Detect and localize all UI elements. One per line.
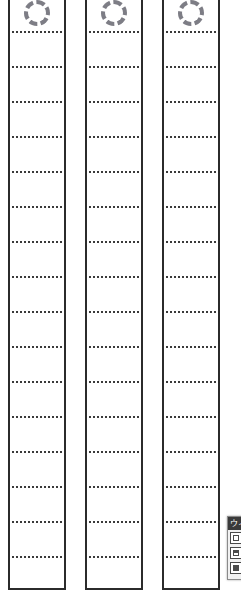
- dotted-rule: [89, 171, 139, 173]
- dotted-rule: [89, 381, 139, 383]
- dotted-rule: [166, 276, 216, 278]
- dotted-rule: [89, 521, 139, 523]
- dotted-rule: [12, 136, 62, 138]
- dotted-rule: [12, 311, 62, 313]
- strip-1[interactable]: [8, 0, 66, 590]
- dotted-rule: [166, 311, 216, 313]
- dotted-rule: [12, 171, 62, 173]
- dotted-rule: [166, 101, 216, 103]
- floating-tool-palette[interactable]: ウィ: [227, 516, 241, 580]
- dotted-rule: [166, 241, 216, 243]
- dotted-rule: [166, 171, 216, 173]
- dotted-rule: [12, 486, 62, 488]
- dotted-rule: [89, 241, 139, 243]
- split-shape-button[interactable]: [230, 547, 241, 559]
- dotted-rule: [12, 521, 62, 523]
- palette-title: ウィ: [230, 517, 241, 530]
- dotted-rule: [166, 556, 216, 558]
- dotted-rule: [166, 381, 216, 383]
- filled-shape-button[interactable]: [230, 562, 241, 574]
- dashed-circle-icon: [24, 0, 50, 26]
- dashed-circle-icon: [178, 0, 204, 26]
- dotted-rule: [89, 556, 139, 558]
- dotted-rule: [89, 451, 139, 453]
- dotted-rule: [12, 206, 62, 208]
- dotted-rule: [89, 136, 139, 138]
- palette-titlebar[interactable]: ウィ: [228, 517, 241, 530]
- strip-2[interactable]: [85, 0, 143, 590]
- dotted-rule: [89, 66, 139, 68]
- document-canvas: ウィ: [0, 0, 241, 593]
- dotted-rule: [12, 346, 62, 348]
- dotted-rule: [12, 101, 62, 103]
- palette-body: [228, 530, 241, 579]
- dotted-rule: [89, 311, 139, 313]
- dotted-rule: [12, 31, 62, 33]
- dotted-rule: [166, 31, 216, 33]
- dotted-rule: [89, 101, 139, 103]
- dotted-rule: [166, 451, 216, 453]
- outline-shape-button[interactable]: [230, 532, 241, 544]
- dotted-rule: [89, 346, 139, 348]
- dashed-circle-icon: [101, 0, 127, 26]
- dotted-rule: [166, 486, 216, 488]
- dotted-rule: [89, 416, 139, 418]
- dotted-rule: [166, 136, 216, 138]
- dotted-rule: [12, 451, 62, 453]
- dotted-rule: [12, 556, 62, 558]
- dotted-rule: [12, 416, 62, 418]
- dotted-rule: [166, 66, 216, 68]
- strip-3[interactable]: [162, 0, 220, 590]
- dotted-rule: [12, 66, 62, 68]
- dotted-rule: [12, 276, 62, 278]
- dotted-rule: [89, 486, 139, 488]
- dotted-rule: [89, 31, 139, 33]
- dotted-rule: [166, 206, 216, 208]
- dotted-rule: [89, 206, 139, 208]
- dotted-rule: [166, 521, 216, 523]
- dotted-rule: [12, 241, 62, 243]
- dotted-rule: [166, 346, 216, 348]
- dotted-rule: [12, 381, 62, 383]
- dotted-rule: [166, 416, 216, 418]
- dotted-rule: [89, 276, 139, 278]
